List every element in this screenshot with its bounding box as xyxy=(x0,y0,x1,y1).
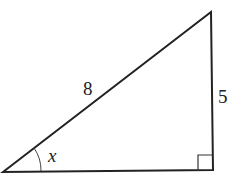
angle-arc xyxy=(34,148,41,171)
angle-label: x xyxy=(47,145,57,166)
triangle-diagram: 8 5 x xyxy=(0,0,238,187)
hypotenuse-label: 8 xyxy=(83,78,93,99)
side-label: 5 xyxy=(218,86,228,107)
right-angle-marker xyxy=(198,155,213,171)
